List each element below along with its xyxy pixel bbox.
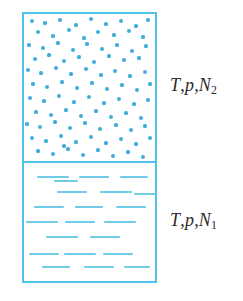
gas-molecule: [111, 154, 115, 158]
gas-pressure-symbol: p: [185, 75, 194, 95]
liquid-molecule: [54, 180, 78, 182]
thermodynamics-two-phase-figure: T,p,N2 T,p,N1: [0, 0, 243, 301]
liquid-molecule: [29, 253, 59, 255]
gas-molecule: [57, 94, 62, 99]
gas-molecule: [90, 81, 93, 84]
gas-molecule: [115, 43, 118, 46]
gas-molecule: [31, 82, 34, 85]
gas-molecule: [43, 21, 46, 24]
gas-molecule: [132, 102, 135, 105]
gas-molecule: [143, 124, 146, 127]
gas-molecule: [84, 67, 89, 72]
gas-molecule: [77, 55, 80, 58]
gas-molecule: [112, 33, 115, 36]
liquid-molecule: [26, 221, 58, 223]
gas-molecule: [99, 73, 102, 76]
gas-molecule: [134, 142, 137, 145]
gas-molecule: [137, 56, 140, 59]
liquid-molecule: [65, 221, 95, 223]
gas-molecule: [72, 100, 75, 103]
gas-molecule: [144, 44, 147, 47]
liquid-molecule: [103, 253, 133, 255]
gas-molecule: [69, 72, 72, 75]
gas-molecule: [94, 109, 97, 112]
liquid-amount-subscript: 1: [211, 218, 217, 232]
gas-molecule: [71, 48, 75, 52]
liquid-molecule: [134, 193, 155, 195]
gas-molecule: [56, 41, 59, 44]
gas-temperature-symbol: T: [170, 75, 180, 95]
gas-molecule: [128, 74, 131, 77]
gas-molecule: [67, 28, 71, 32]
gas-molecule: [79, 114, 83, 118]
liquid-molecule: [124, 266, 150, 268]
gas-molecule: [119, 19, 123, 23]
gas-molecule: [45, 85, 50, 90]
gas-molecule: [26, 68, 31, 73]
liquid-molecule: [42, 266, 70, 268]
gas-molecule: [58, 18, 62, 22]
gas-molecule: [134, 24, 137, 27]
gas-molecule: [87, 95, 91, 99]
liquid-molecule: [37, 176, 69, 178]
gas-molecule: [54, 66, 58, 70]
gas-molecule: [148, 136, 152, 140]
gas-molecule: [89, 135, 94, 140]
gas-molecule: [53, 120, 56, 123]
gas-molecule: [105, 87, 110, 92]
gas-molecule: [96, 30, 101, 35]
gas-molecule: [64, 108, 67, 111]
gas-molecule: [74, 23, 77, 26]
gas-molecule: [81, 153, 86, 158]
gas-molecule: [109, 115, 114, 120]
gas-molecule: [42, 99, 45, 102]
gas-phase-region: [24, 14, 155, 163]
gas-molecule: [75, 86, 79, 90]
liquid-molecule: [34, 206, 64, 208]
gas-molecule: [60, 80, 63, 83]
gas-molecule: [98, 127, 102, 131]
gas-molecule: [148, 82, 151, 85]
gas-molecule: [74, 140, 77, 143]
liquid-molecule: [104, 221, 136, 223]
liquid-phase-label: T,p,N1: [170, 210, 217, 233]
gas-molecule: [44, 139, 47, 142]
gas-molecule: [104, 141, 107, 144]
gas-molecule: [51, 152, 55, 156]
gas-molecule: [129, 128, 134, 133]
gas-molecule: [49, 113, 54, 118]
gas-molecule: [25, 122, 28, 125]
gas-molecule: [130, 49, 134, 53]
container-vessel: [22, 12, 157, 283]
liquid-temperature-symbol: T: [170, 210, 180, 230]
liquid-pressure-symbol: p: [185, 210, 194, 230]
gas-molecule: [66, 147, 69, 150]
gas-molecule: [51, 34, 54, 37]
gas-molecule: [104, 22, 107, 25]
gas-molecule: [89, 17, 94, 22]
gas-molecule: [122, 58, 127, 63]
liquid-amount-symbol: N: [199, 210, 211, 230]
gas-molecule: [30, 19, 34, 23]
gas-molecule: [127, 29, 131, 33]
gas-molecule: [113, 69, 117, 73]
gas-molecule: [100, 47, 105, 52]
liquid-molecule: [90, 236, 120, 238]
gas-molecule: [141, 155, 146, 160]
gas-molecule: [143, 70, 147, 74]
liquid-molecule: [46, 236, 78, 238]
gas-molecule: [36, 30, 41, 35]
gas-molecule: [59, 134, 63, 138]
liquid-phase-region: [24, 163, 155, 281]
gas-molecule: [119, 137, 123, 141]
liquid-molecule: [120, 176, 148, 178]
gas-molecule: [36, 149, 39, 152]
gas-molecule: [39, 71, 42, 74]
gas-molecule: [114, 123, 117, 126]
gas-molecule: [92, 60, 96, 64]
gas-molecule: [146, 98, 150, 102]
gas-molecule: [62, 144, 65, 147]
gas-molecule: [34, 110, 37, 113]
liquid-molecule: [79, 176, 109, 178]
gas-molecule: [27, 43, 30, 46]
